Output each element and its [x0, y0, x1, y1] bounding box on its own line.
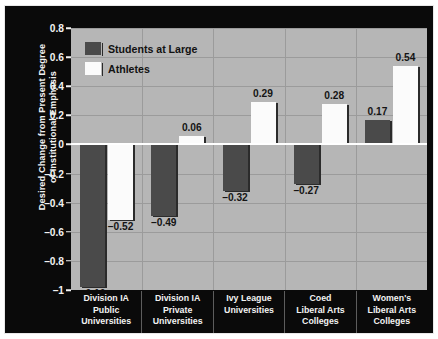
bar-athletes[interactable]	[251, 102, 276, 144]
y-tick-label: –0.4	[44, 197, 64, 208]
bar-value-label: 0.28	[309, 90, 360, 101]
x-category-label-line: Coed	[309, 293, 331, 305]
x-category-label-line: Division IA	[83, 293, 128, 305]
chart-figure: Desired Change from Present Degree of In…	[4, 5, 434, 334]
bar-students-at-large[interactable]	[223, 144, 248, 191]
legend-item[interactable]: Students at Large	[85, 42, 197, 55]
bar-value-label: 0.54	[380, 52, 427, 63]
legend-swatch-icon	[85, 62, 101, 75]
bar-value-label: 0.17	[352, 106, 403, 117]
gridline-horizontal	[71, 28, 427, 29]
gridline-vertical	[213, 28, 214, 290]
x-category-label: Ivy LeagueUniversities	[213, 291, 284, 333]
y-tick-label: 0.4	[50, 81, 64, 92]
x-category-label: Division IAPublicUniversities	[71, 291, 141, 333]
gridline-horizontal	[71, 261, 427, 262]
x-category-label-line: Universities	[81, 316, 131, 328]
bar-value-label: –0.10	[71, 288, 118, 290]
y-tick-label: 0.2	[50, 110, 64, 121]
legend-label: Students at Large	[108, 43, 197, 55]
x-category-label-line: Ivy League	[226, 293, 271, 305]
y-tick-label: 0	[58, 139, 64, 150]
x-category-label-line: Colleges	[302, 316, 339, 328]
x-category-label-line: Universities	[153, 316, 203, 328]
legend-label: Athletes	[108, 63, 150, 75]
x-category-label-line: Universities	[224, 305, 274, 317]
y-tick-label: –0.8	[44, 255, 64, 266]
x-category-label: CoedLiberal ArtsColleges	[284, 291, 355, 333]
legend-item[interactable]: Athletes	[85, 62, 197, 75]
y-tick-label: –0.2	[44, 168, 64, 179]
x-category-label-line: Colleges	[373, 316, 410, 328]
x-category-label-line: Division IA	[155, 293, 200, 305]
x-category-label: Women'sLiberal ArtsColleges	[356, 291, 427, 333]
y-axis-tick-labels: 0.80.60.40.20–0.2–0.4–0.6–0.8–1	[23, 28, 71, 290]
x-category-label-line: Liberal Arts	[368, 305, 417, 317]
bar-value-label: 0.06	[166, 122, 217, 133]
bar-athletes[interactable]	[108, 144, 133, 220]
bar-value-label: 0.29	[238, 88, 289, 99]
plot-area: –0.10–0.49–0.32–0.270.17–0.520.060.290.2…	[71, 28, 427, 290]
bar-value-label: –0.32	[210, 192, 261, 203]
bar-athletes[interactable]	[322, 104, 347, 145]
gridline-vertical	[285, 28, 286, 290]
bar-value-label: –0.52	[95, 221, 146, 232]
zero-baseline	[71, 143, 427, 145]
bar-students-at-large[interactable]	[80, 144, 105, 287]
gridline-vertical	[356, 28, 357, 290]
x-category-label-line: Women's	[373, 293, 412, 305]
bar-students-at-large[interactable]	[365, 120, 390, 145]
x-axis-category-labels: Division IAPublicUniversitiesDivision IA…	[71, 291, 427, 333]
x-category-label-line: Public	[93, 305, 119, 317]
gridline-horizontal	[71, 86, 427, 87]
x-category-label: Division IAPrivateUniversities	[141, 291, 212, 333]
bar-value-label: –0.27	[281, 185, 332, 196]
x-category-label-line: Private	[163, 305, 192, 317]
y-tick-label: –1	[53, 285, 64, 296]
y-tick-label: 0.8	[50, 23, 64, 34]
x-category-label-line: Liberal Arts	[296, 305, 345, 317]
y-tick-label: 0.6	[50, 52, 64, 63]
legend-swatch-icon	[85, 42, 101, 55]
bar-students-at-large[interactable]	[151, 144, 176, 215]
legend: Students at LargeAthletes	[85, 42, 197, 82]
y-tick-label: –0.6	[44, 226, 64, 237]
bar-students-at-large[interactable]	[294, 144, 319, 183]
